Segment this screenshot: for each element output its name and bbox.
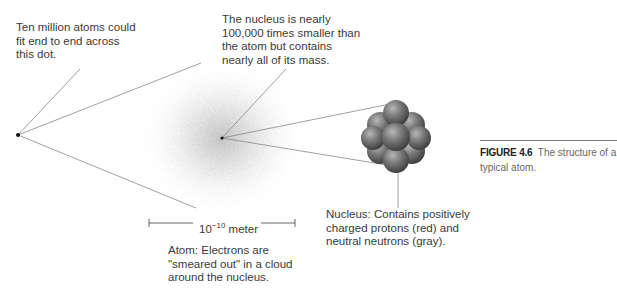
nucleus-dot	[220, 136, 223, 139]
dot-annotation: Ten million atoms could fit end to end a…	[16, 21, 136, 62]
nucleus-annotation: The nucleus is nearly 100,000 times smal…	[222, 13, 360, 67]
text-line: this dot.	[16, 48, 136, 62]
text-line: Atom: Electrons are	[168, 244, 293, 258]
text-line: neutral neutrons (gray).	[326, 235, 470, 249]
nucleus-illustration	[361, 100, 431, 173]
text-line: Ten million atoms could	[16, 21, 136, 35]
text-line: the atom but contains	[222, 40, 360, 54]
atom-annotation: Atom: Electrons are "smeared out" in a c…	[168, 244, 293, 285]
scale-base: 10	[199, 223, 212, 235]
text-line: Nucleus: Contains positively	[326, 208, 470, 222]
text-line: fit end to end across	[16, 35, 136, 49]
caption-rule	[480, 140, 617, 141]
text-line: nearly all of its mass.	[222, 54, 360, 68]
text-line: "smeared out" in a cloud	[168, 258, 293, 272]
scale-label: 10−10 meter	[196, 221, 261, 235]
text-line: 100,000 times smaller than	[222, 27, 360, 41]
scale-exponent: −10	[212, 221, 226, 230]
text-line: charged protons (red) and	[326, 222, 470, 236]
text-line: The nucleus is nearly	[222, 13, 360, 27]
scale-unit: meter	[229, 223, 258, 235]
figure-caption: FIGURE 4.6 The structure of a typical at…	[480, 145, 617, 175]
figure-number: FIGURE 4.6	[480, 147, 532, 158]
nucleus-label: Nucleus: Contains positively charged pro…	[326, 208, 470, 249]
text-line: around the nucleus.	[168, 271, 293, 285]
atom-dot	[16, 133, 20, 137]
